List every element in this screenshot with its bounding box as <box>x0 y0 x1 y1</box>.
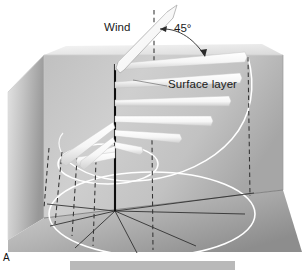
box-left-wall <box>8 55 44 240</box>
ekman-spiral-figure: Wind 45° Surface layer A <box>0 0 302 271</box>
caption-placeholder-bar <box>70 261 235 270</box>
box-top-face <box>44 44 283 55</box>
ekman-spiral-illustration <box>0 0 302 271</box>
